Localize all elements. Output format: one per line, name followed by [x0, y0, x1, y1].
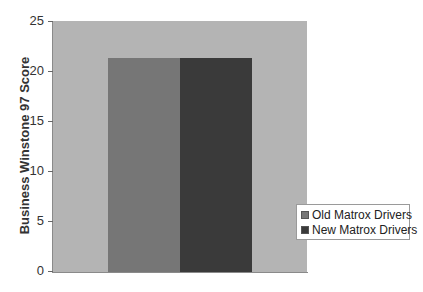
legend-label: Old Matrox Drivers [312, 208, 412, 222]
y-axis-label: Business Winstone 97 Score [17, 56, 32, 236]
legend-item-new: New Matrox Drivers [301, 223, 417, 237]
y-tick [48, 121, 53, 122]
bar-new-matrox-drivers [180, 58, 252, 272]
y-tick-label: 0 [4, 264, 44, 278]
y-tick-label: 25 [4, 14, 44, 28]
plot-area [53, 21, 307, 272]
legend-item-old: Old Matrox Drivers [301, 208, 412, 222]
legend-swatch-icon [301, 211, 309, 219]
y-axis [52, 21, 53, 273]
y-tick [48, 171, 53, 172]
y-tick [48, 221, 53, 222]
y-tick [48, 271, 53, 272]
legend: Old Matrox Drivers New Matrox Drivers [296, 204, 410, 240]
y-tick [48, 71, 53, 72]
y-tick [48, 21, 53, 22]
legend-label: New Matrox Drivers [312, 223, 417, 237]
x-axis [52, 272, 308, 273]
bar-old-matrox-drivers [108, 58, 181, 272]
legend-swatch-icon [301, 226, 309, 234]
